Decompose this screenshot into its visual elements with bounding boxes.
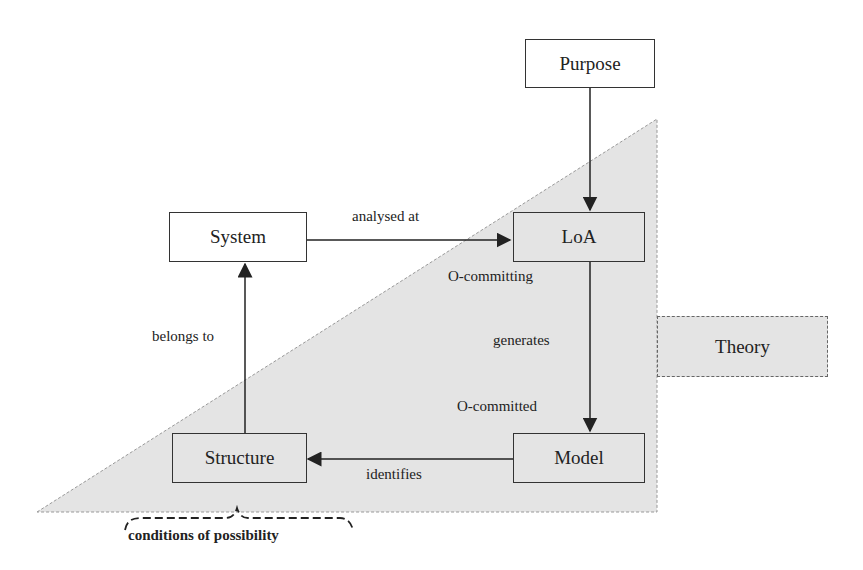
theory-label: Theory (715, 336, 770, 358)
purpose-node: Purpose (525, 39, 655, 88)
edge-label-belongs-to: belongs to (152, 328, 214, 345)
system-node: System (169, 212, 307, 262)
edge-label-identifies: identifies (366, 466, 422, 483)
edge-label-generates: generates (493, 332, 550, 349)
system-label: System (210, 226, 266, 248)
structure-node: Structure (172, 433, 307, 483)
theory-node: Theory (657, 316, 828, 377)
edge-label-o-committing: O-committing (448, 268, 533, 285)
structure-label: Structure (205, 447, 275, 469)
edge-label-o-committed: O-committed (457, 398, 537, 415)
model-label: Model (554, 447, 604, 469)
conditions-annotation: conditions of possibility (128, 527, 279, 544)
purpose-label: Purpose (559, 53, 620, 75)
model-node: Model (513, 433, 645, 483)
loa-node: LoA (513, 212, 645, 262)
edge-label-analysed-at: analysed at (352, 208, 419, 225)
loa-label: LoA (562, 226, 597, 248)
diagram-canvas (0, 0, 863, 570)
